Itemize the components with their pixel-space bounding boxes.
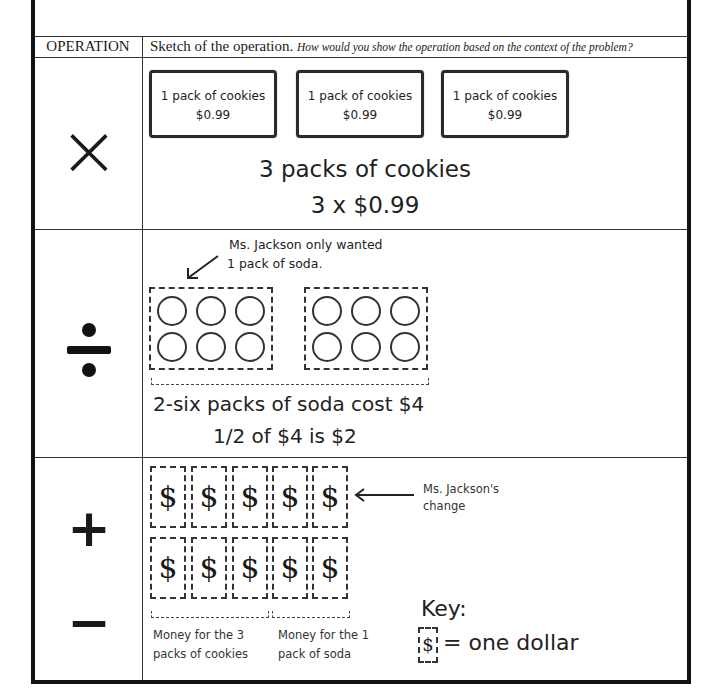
bracket-label: Money for the 3 <box>153 628 244 642</box>
caption-line: 2-six packs of soda cost $4 <box>153 392 424 416</box>
bracket <box>151 611 269 618</box>
dollar-bill: $ <box>232 537 268 599</box>
dollar-bill: $ <box>191 466 227 528</box>
dollar-bill: $ <box>312 537 348 599</box>
dollar-bill: $ <box>191 537 227 599</box>
divide-icon <box>36 320 142 380</box>
dollar-bill: $ <box>232 466 268 528</box>
dollar-bill: $ <box>150 537 186 599</box>
bracket-label: Money for the 1 <box>278 628 369 642</box>
column-divider <box>142 36 143 680</box>
cookie-pack-price: $0.99 <box>444 106 566 125</box>
header-sketch: Sketch of the operation. How would you s… <box>150 38 633 55</box>
annotation-line: Ms. Jackson only wanted <box>229 237 383 252</box>
divider <box>35 36 687 37</box>
dollar-bill: $ <box>272 466 308 528</box>
dollar-bill: $ <box>150 466 186 528</box>
bracket <box>151 378 429 385</box>
six-pack <box>304 287 428 370</box>
plus-icon: + <box>36 500 142 556</box>
minus-icon: − <box>36 594 142 650</box>
divider <box>35 229 687 230</box>
cookie-pack-price: $0.99 <box>299 106 421 125</box>
annotation-line: 1 pack of soda. <box>227 256 322 271</box>
key-text: = one dollar <box>443 630 579 655</box>
dollar-bill: $ <box>312 466 348 528</box>
caption-line: 1/2 of $4 is $2 <box>213 424 357 448</box>
cookie-pack-label: 1 pack of cookies <box>444 87 566 106</box>
dollar-bill: $ <box>272 537 308 599</box>
bracket <box>272 611 350 618</box>
header-sketch-title: Sketch of the operation. <box>150 38 293 54</box>
cookie-pack-label: 1 pack of cookies <box>299 87 421 106</box>
header-sketch-prompt: How would you show the operation based o… <box>297 41 633 53</box>
bracket-label: packs of cookies <box>153 647 248 661</box>
change-label: change <box>423 499 465 513</box>
cookie-pack-card: 1 pack of cookies $0.99 <box>296 70 424 138</box>
header-operation: OPERATION <box>36 38 140 55</box>
cookie-pack-card: 1 pack of cookies $0.99 <box>441 70 569 138</box>
arrow-icon <box>182 252 222 284</box>
arrow-left-icon <box>352 487 416 503</box>
caption-line: 3 packs of cookies <box>150 156 580 182</box>
six-pack <box>149 287 273 370</box>
bracket-label: pack of soda <box>278 647 351 661</box>
key-title: Key: <box>421 596 467 621</box>
cookie-pack-price: $0.99 <box>152 106 274 125</box>
key-dollar-bill: $ <box>418 627 438 663</box>
divider <box>35 57 687 58</box>
caption-line: 3 x $0.99 <box>150 192 580 218</box>
cookie-pack-card: 1 pack of cookies $0.99 <box>149 70 277 138</box>
cookie-pack-label: 1 pack of cookies <box>152 87 274 106</box>
change-label: Ms. Jackson's <box>423 482 499 496</box>
divider <box>35 457 687 458</box>
multiply-icon: × <box>36 110 142 190</box>
